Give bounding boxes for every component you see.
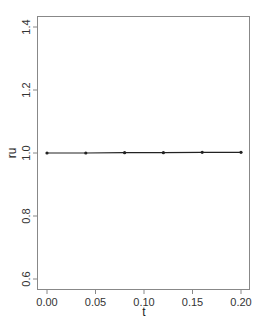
y-tick-label: 1.2 [20, 82, 32, 97]
y-axis-ticks: 0.60.81.01.21.4 [20, 19, 38, 286]
x-tick-label: 0.20 [230, 296, 251, 308]
line-chart: 0.000.050.100.150.20 0.60.81.01.21.4 t r… [0, 0, 265, 330]
y-axis-label: ru [5, 148, 19, 159]
x-tick-label: 0.00 [36, 296, 57, 308]
y-tick-label: 0.6 [20, 271, 32, 286]
y-tick-label: 1.4 [20, 19, 32, 34]
y-tick-label: 0.8 [20, 208, 32, 223]
x-tick-label: 0.15 [182, 296, 203, 308]
data-point-marker [84, 151, 87, 154]
data-point-marker [123, 151, 126, 154]
series-line [47, 152, 241, 153]
data-point-marker [239, 151, 242, 154]
x-tick-label: 0.05 [85, 296, 106, 308]
data-point-marker [162, 151, 165, 154]
data-point-marker [45, 151, 48, 154]
y-tick-label: 1.0 [20, 145, 32, 160]
data-series [45, 151, 242, 155]
data-point-marker [201, 151, 204, 154]
